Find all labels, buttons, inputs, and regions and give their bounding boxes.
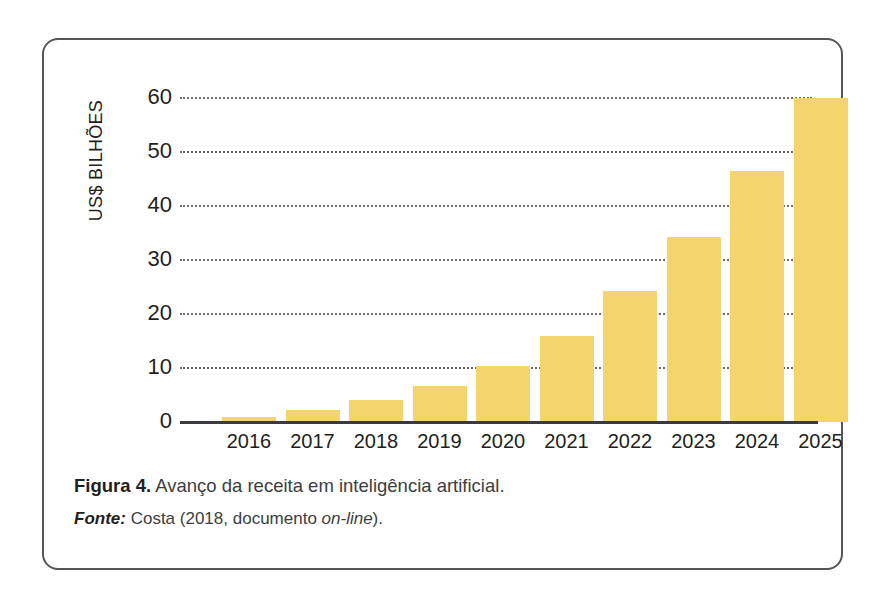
x-tick-label: 2021	[535, 430, 599, 453]
y-tick-label: 20	[126, 302, 172, 324]
figure-source: Fonte: Costa (2018, documento on-line).	[74, 506, 814, 532]
x-axis-tick-labels: 2016201720182019202020212022202320242025	[180, 430, 820, 464]
bar[interactable]	[476, 366, 530, 422]
x-tick-label: 2017	[281, 430, 345, 453]
x-tick-label: 2023	[662, 430, 726, 453]
x-tick-label: 2022	[598, 430, 662, 453]
y-tick-label: 30	[126, 248, 172, 270]
x-tick-label: 2024	[725, 430, 789, 453]
y-axis-title: US$ BILHÕES	[86, 71, 107, 251]
bar[interactable]	[540, 336, 594, 422]
figure-source-text-b: ).	[373, 509, 383, 528]
y-tick-label: 50	[126, 140, 172, 162]
bar[interactable]	[603, 291, 657, 422]
bar[interactable]	[730, 171, 784, 422]
bar[interactable]	[349, 400, 403, 422]
y-axis-tick-labels: 0102030405060	[122, 40, 172, 440]
bar[interactable]	[413, 386, 467, 422]
y-tick-label: 60	[126, 86, 172, 108]
x-tick-label: 2025	[789, 430, 853, 453]
bar[interactable]	[667, 237, 721, 422]
figure-caption: Figura 4. Avanço da receita em inteligên…	[74, 472, 814, 500]
bar[interactable]	[794, 98, 848, 422]
x-axis-line	[180, 421, 818, 424]
y-tick-label: 0	[126, 410, 172, 432]
figure-source-text-italic: on-line	[322, 509, 373, 528]
figure-source-text-a: Costa (2018, documento	[126, 509, 322, 528]
figure-caption-text: Avanço da receita em inteligência artifi…	[151, 475, 504, 496]
x-tick-label: 2018	[344, 430, 408, 453]
y-tick-label: 40	[126, 194, 172, 216]
y-tick-label: 10	[126, 356, 172, 378]
x-tick-label: 2019	[408, 430, 472, 453]
bar-chart: US$ BILHÕES 0102030405060 20162017201820…	[44, 40, 845, 440]
figure-caption-label: Figura 4.	[74, 475, 151, 496]
bar-series	[180, 40, 812, 422]
figure-box: US$ BILHÕES 0102030405060 20162017201820…	[42, 38, 843, 570]
x-tick-label: 2016	[217, 430, 281, 453]
figure-caption-block: Figura 4. Avanço da receita em inteligên…	[74, 472, 814, 531]
x-tick-label: 2020	[471, 430, 535, 453]
figure-source-label: Fonte:	[74, 509, 126, 528]
